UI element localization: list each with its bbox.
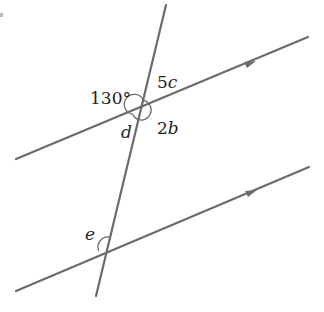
angle-label-2b: 2b xyxy=(157,120,179,137)
var-c: c xyxy=(168,72,178,92)
angle-label-e: e xyxy=(85,226,95,243)
parallel-line-top xyxy=(16,37,308,159)
parallel-line-bottom xyxy=(16,167,309,291)
angle-label-130: 130° xyxy=(90,90,131,107)
angle-label-5c: 5c xyxy=(157,74,177,91)
parallel-arrow-top-icon xyxy=(244,61,256,68)
angle-arc-d xyxy=(133,114,139,120)
geometry-svg xyxy=(0,0,324,312)
coef-5: 5 xyxy=(157,72,168,92)
angle-label-d: d xyxy=(121,124,132,141)
diagram-canvas: 130° 5c d 2b e xyxy=(0,0,324,312)
coef-2: 2 xyxy=(157,118,168,138)
edge-mark xyxy=(0,13,3,17)
transversal-line xyxy=(96,5,166,296)
parallel-arrow-bottom-icon xyxy=(245,190,257,197)
var-b: b xyxy=(168,118,179,138)
